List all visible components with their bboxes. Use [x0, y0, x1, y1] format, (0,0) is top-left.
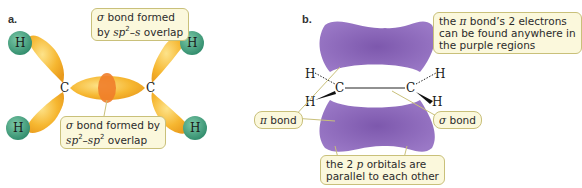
h-label: H [305, 95, 315, 109]
pi-bond-diagram: C C H H H H [293, 22, 445, 158]
sp2-lobe-lower-left [26, 92, 64, 133]
callout-text: bond’s 2 electrons [466, 15, 566, 27]
c-label-right: C [146, 81, 155, 95]
c-label-left: C [60, 81, 69, 95]
sp2-lobe-upper-left [28, 35, 64, 83]
hashed-wedge [416, 73, 436, 84]
callout-text: orbitals are [363, 158, 426, 170]
c-label-right: C [406, 81, 415, 95]
c-label-left: C [335, 81, 344, 95]
callout-sp2-sp2-overlap: σ bond formed by sp2–sp2 overlap [60, 116, 166, 149]
callout-pi-electrons: the π bond’s 2 electrons can be found an… [433, 12, 582, 54]
h-label: H [187, 36, 197, 50]
callout-text: bond formed [104, 11, 175, 23]
p-orbital-upper-lobe [320, 22, 435, 72]
panel-label-a: a. [8, 13, 17, 25]
pi-symbol: π [260, 114, 267, 126]
h-label: H [432, 95, 442, 109]
callout-text: can be found anywhere in [439, 27, 576, 39]
callout-text: overlap [104, 134, 147, 146]
callout-sigma-bond: σ bond [433, 111, 482, 129]
h-label: H [15, 36, 25, 50]
panel-label-b: b. [302, 13, 312, 25]
callout-sp2-s-overlap: σ bond formed by sp2–s overlap [91, 8, 189, 41]
sigma-overlap-region [98, 73, 116, 103]
callout-text: sp [66, 134, 78, 146]
callout-text: sp [113, 26, 125, 38]
solid-wedge [315, 91, 336, 100]
callout-text: by [97, 26, 113, 38]
h-label: H [13, 121, 23, 135]
callout-text: the purple regions [439, 39, 576, 51]
callout-parallel-p-orbitals: the 2 p orbitals are parallel to each ot… [320, 155, 445, 185]
h-label: H [305, 67, 315, 81]
hashed-wedge [315, 73, 335, 84]
callout-text: bond [446, 114, 476, 126]
h-label: H [190, 121, 200, 135]
callout-pi-bond: π bond [254, 111, 303, 129]
callout-text: sp [88, 134, 100, 146]
callout-text: parallel to each other [326, 170, 439, 182]
p-orbital-lower-lobe [320, 100, 435, 152]
callout-text: overlap [140, 26, 183, 38]
callout-text: bond formed by [73, 119, 160, 131]
h-label: H [435, 67, 445, 81]
callout-text: the [439, 15, 460, 27]
callout-text: the 2 [326, 158, 357, 170]
callout-text: bond [267, 114, 297, 126]
